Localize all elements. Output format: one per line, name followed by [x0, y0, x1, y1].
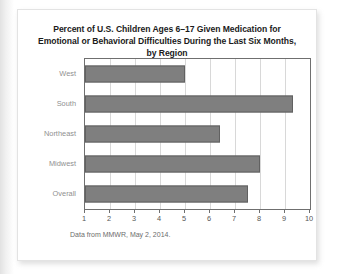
x-tick-label-8: 8 — [257, 214, 261, 223]
tick-mark-2 — [109, 210, 110, 213]
chart-title: Percent of U.S. Children Ages 6–17 Given… — [32, 23, 302, 60]
x-tick-label-3: 3 — [132, 214, 136, 223]
tick-mark-9 — [284, 210, 285, 213]
x-tick-label-7: 7 — [232, 214, 236, 223]
x-tick-label-9: 9 — [282, 214, 286, 223]
chart-plot-wrapper: WestSouthNortheastMidwestOverall 1234567… — [32, 58, 304, 228]
y-label-northeast: Northeast — [44, 129, 76, 138]
x-tick-label-2: 2 — [107, 214, 111, 223]
gridline-8 — [260, 59, 261, 209]
bar-midwest — [85, 156, 260, 173]
y-label-overall: Overall — [53, 189, 76, 198]
bar-overall — [85, 186, 248, 203]
y-label-south: South — [57, 99, 76, 108]
tick-mark-4 — [159, 210, 160, 213]
tick-mark-6 — [209, 210, 210, 213]
chart-card: Percent of U.S. Children Ages 6–17 Given… — [17, 9, 317, 261]
x-tick-label-1: 1 — [82, 214, 86, 223]
bar-northeast — [85, 126, 220, 143]
x-axis-ticks: 12345678910 — [84, 210, 311, 226]
bar-west — [85, 66, 185, 83]
bar-south — [85, 96, 293, 113]
gridline-9 — [285, 59, 286, 209]
tick-mark-8 — [259, 210, 260, 213]
plot-area — [84, 58, 311, 210]
tick-mark-3 — [134, 210, 135, 213]
x-tick-label-10: 10 — [305, 214, 313, 223]
tick-mark-1 — [84, 210, 85, 213]
y-label-west: West — [59, 69, 76, 78]
tick-mark-5 — [184, 210, 185, 213]
y-axis-category-labels: WestSouthNortheastMidwestOverall — [32, 58, 80, 210]
x-tick-label-5: 5 — [182, 214, 186, 223]
chart-title-line-2: or Behavioral Difficulties During the La… — [81, 36, 296, 58]
y-label-midwest: Midwest — [49, 159, 76, 168]
x-tick-label-4: 4 — [157, 214, 161, 223]
tick-mark-10 — [309, 210, 310, 213]
x-tick-label-6: 6 — [207, 214, 211, 223]
source-note: Data from MMWR, May 2, 2014. — [70, 231, 170, 238]
tick-mark-7 — [234, 210, 235, 213]
